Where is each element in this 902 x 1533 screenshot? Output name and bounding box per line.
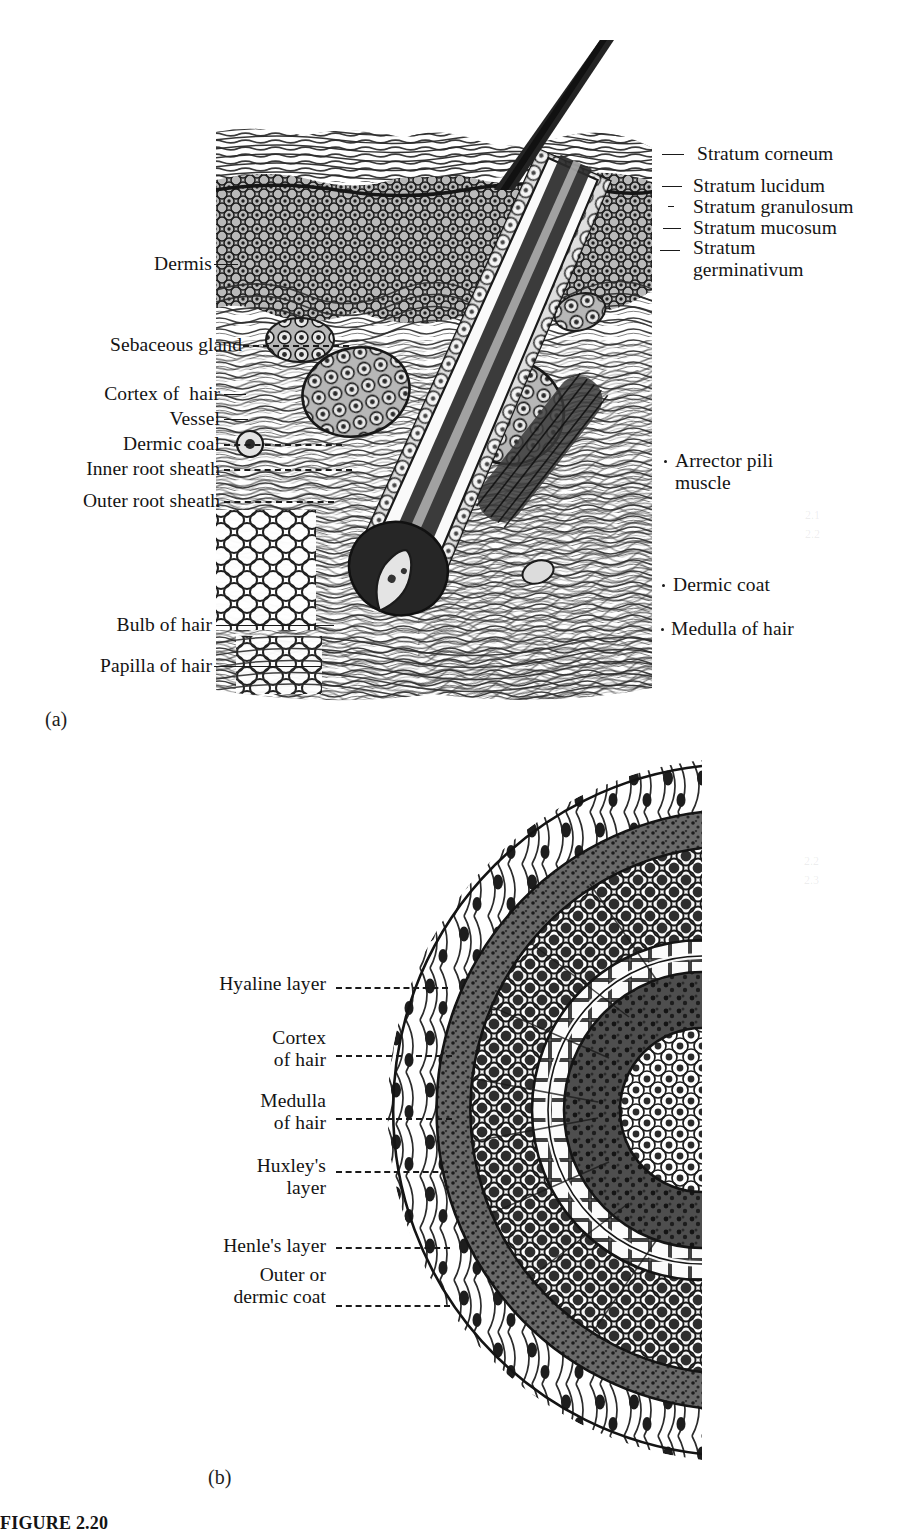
leader-outer-or-dermic-coat <box>336 1305 450 1307</box>
leader-sebaceous-gland <box>243 345 349 347</box>
label-inner-root-sheath: Inner root sheath <box>10 458 220 480</box>
leader-cortex-of-hair <box>224 394 246 395</box>
label-dermic-coal: Dermic coal <box>50 433 220 455</box>
scan-ghost-b: 2.2 2.3 <box>804 852 819 890</box>
label-dermis: Dermis <box>60 253 212 275</box>
leader-medulla-of-hair-b <box>336 1118 452 1120</box>
leader-bulb-of-hair <box>216 625 334 626</box>
label-medulla-of-hair-b: Medulla of hair <box>190 1090 326 1134</box>
label-vessel: Vessel <box>80 408 220 430</box>
label-bulb-of-hair: Bulb of hair <box>40 614 212 636</box>
leader-papilla-of-hair <box>214 666 322 667</box>
label-outer-root-sheath: Outer root sheath <box>8 490 220 512</box>
label-huxleys-layer: Huxley's layer <box>200 1155 326 1199</box>
leader-stratum-germinativum <box>660 250 680 251</box>
panel-b-illustration <box>350 760 702 1460</box>
panel-a-illustration <box>208 40 660 712</box>
leader-stratum-mucosum <box>663 228 681 229</box>
label-medulla-of-hair: Medulla of hair <box>671 618 881 640</box>
figure-caption: FIGURE 2.20 <box>0 1513 108 1533</box>
leader-hyaline-layer <box>336 987 448 989</box>
label-stratum-mucosum: Stratum mucosum <box>693 217 902 239</box>
panel-a-caption: (a) <box>45 708 67 731</box>
label-stratum-corneum: Stratum corneum <box>697 143 902 165</box>
label-sebaceous-gland: Sebaceous gland <box>20 334 242 356</box>
label-hyaline-layer: Hyaline layer <box>186 973 326 995</box>
label-cortex-of-hair-b: Cortex of hair <box>196 1027 326 1071</box>
label-henles-layer: Henle's layer <box>178 1235 326 1257</box>
label-outer-or-dermic-coat: Outer or dermic coat <box>170 1264 326 1308</box>
label-dermic-coat: Dermic coat <box>673 574 873 596</box>
leader-inner-root-sheath <box>224 469 352 471</box>
leader-dermis <box>214 264 238 265</box>
leader-vessel <box>224 419 248 420</box>
scan-ghost-a: 2.1 2.2 <box>805 506 820 544</box>
label-cortex-of-hair: Cortex of hair <box>30 383 220 405</box>
leader-henles-layer <box>336 1247 450 1249</box>
label-stratum-lucidum: Stratum lucidum <box>693 175 902 197</box>
label-stratum-germinativum: Stratum germinativum <box>693 237 902 281</box>
panel-b-caption: (b) <box>208 1466 231 1489</box>
leader-stratum-lucidum <box>662 186 682 187</box>
leader-cortex-of-hair-b <box>336 1055 452 1057</box>
label-arrector-pili-muscle: Arrector pili muscle <box>675 450 875 494</box>
label-papilla-of-hair: Papilla of hair <box>22 655 212 677</box>
leader-dermic-coal <box>224 444 342 446</box>
leader-huxleys-layer <box>336 1171 448 1173</box>
leader-outer-root-sheath <box>224 501 334 503</box>
label-stratum-granulosum: Stratum granulosum <box>693 196 902 218</box>
leader-stratum-granulosum <box>668 206 674 207</box>
leader-stratum-corneum <box>662 154 684 155</box>
